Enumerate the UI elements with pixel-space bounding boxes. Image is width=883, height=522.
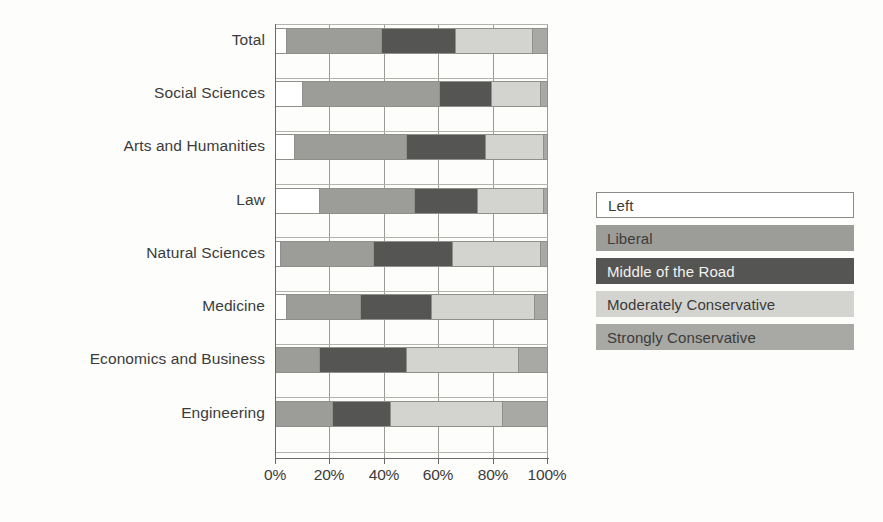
y-axis-label: Natural Sciences <box>10 244 265 262</box>
x-tick-20 <box>329 458 330 464</box>
legend-item[interactable]: Middle of the Road <box>596 258 854 284</box>
hgridline <box>275 344 548 345</box>
bar-segment <box>332 401 389 427</box>
bar-segment <box>373 241 452 267</box>
bar-segment <box>452 241 539 267</box>
bar-row <box>275 134 548 160</box>
x-axis-tick-label: 60% <box>408 466 468 484</box>
bar-segment <box>477 188 543 214</box>
x-tick-80 <box>493 458 494 464</box>
bar-row <box>275 81 548 107</box>
bar-row <box>275 241 548 267</box>
stacked-bar-chart: 0%20%40%60%80%100% TotalSocial SciencesA… <box>0 0 883 522</box>
legend-item[interactable]: Strongly Conservative <box>596 324 854 350</box>
bar-segment <box>302 81 439 107</box>
bar-segment <box>518 347 548 373</box>
x-axis-tick-label: 20% <box>299 466 359 484</box>
bar-segment <box>319 347 406 373</box>
x-axis-tick-label: 80% <box>463 466 523 484</box>
bar-segment <box>439 81 491 107</box>
x-axis-tick-label: 40% <box>354 466 414 484</box>
bar-segment <box>286 28 382 54</box>
bar-row <box>275 188 548 214</box>
hgridline <box>275 24 548 25</box>
hgridline <box>275 131 548 132</box>
bar-segment <box>485 134 542 160</box>
bar-segment <box>406 134 485 160</box>
x-tick-60 <box>438 458 439 464</box>
legend-item[interactable]: Moderately Conservative <box>596 291 854 317</box>
bar-segment <box>543 134 548 160</box>
y-axis-label: Law <box>10 191 265 209</box>
bar-row <box>275 347 548 373</box>
bar-segment <box>540 81 548 107</box>
y-axis-label: Medicine <box>10 297 265 315</box>
hgridline <box>275 452 548 453</box>
plot-area <box>275 24 548 458</box>
bar-segment <box>275 28 286 54</box>
y-axis-label: Economics and Business <box>10 350 265 368</box>
bar-segment <box>414 188 477 214</box>
bar-segment <box>543 188 548 214</box>
bar-row <box>275 28 548 54</box>
hgridline <box>275 78 548 79</box>
bar-segment <box>360 294 431 320</box>
bar-segment <box>294 134 406 160</box>
y-axis-label: Engineering <box>10 404 265 422</box>
x-axis-tick-label: 0% <box>245 466 305 484</box>
x-tick-0 <box>275 458 276 464</box>
bar-segment <box>319 188 415 214</box>
bar-segment <box>275 401 332 427</box>
bar-segment <box>532 28 548 54</box>
x-tick-40 <box>384 458 385 464</box>
legend-item[interactable]: Liberal <box>596 225 854 251</box>
bar-segment <box>280 241 373 267</box>
y-axis-line <box>275 24 276 459</box>
y-axis-label: Total <box>10 31 265 49</box>
hgridline <box>275 291 548 292</box>
hgridline <box>275 397 548 398</box>
x-tick-100 <box>547 458 548 464</box>
bar-segment <box>275 347 319 373</box>
bar-segment <box>540 241 548 267</box>
bar-segment <box>275 294 286 320</box>
x-axis-tick-label: 100% <box>517 466 577 484</box>
bar-segment <box>455 28 531 54</box>
bar-segment <box>275 81 302 107</box>
bar-segment <box>381 28 455 54</box>
x-axis-line <box>275 458 549 459</box>
hgridline <box>275 184 548 185</box>
hgridline <box>275 237 548 238</box>
bar-segment <box>491 81 540 107</box>
bar-segment <box>275 188 319 214</box>
y-axis-label: Arts and Humanities <box>10 137 265 155</box>
chart-legend: LeftLiberalMiddle of the RoadModerately … <box>596 192 854 357</box>
bar-segment <box>534 294 548 320</box>
bar-segment <box>406 347 518 373</box>
bar-segment <box>431 294 535 320</box>
y-axis-label: Social Sciences <box>10 84 265 102</box>
bar-segment <box>275 134 294 160</box>
bar-row <box>275 401 548 427</box>
bar-segment <box>286 294 360 320</box>
bar-row <box>275 294 548 320</box>
legend-item[interactable]: Left <box>596 192 854 218</box>
bar-segment <box>390 401 502 427</box>
bar-segment <box>502 401 548 427</box>
